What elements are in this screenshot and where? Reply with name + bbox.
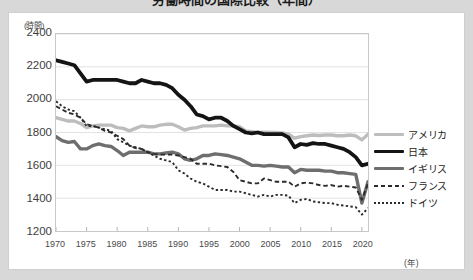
legend-item-ドイツ[interactable]: ドイツ: [374, 194, 470, 211]
legend-label: イギリス: [408, 161, 447, 176]
chart-screenshot: 労働時間の国際比較（年間） (時間) (年) 24002200200018001…: [0, 0, 473, 280]
series-line-日本: [56, 60, 368, 165]
legend-swatch-icon: [374, 146, 404, 158]
legend-label: フランス: [408, 178, 447, 193]
legend-label: ドイツ: [408, 195, 437, 210]
chart-legend: アメリカ日本イギリスフランスドイツ: [374, 126, 470, 211]
x-tick-2020: 2020: [343, 239, 383, 249]
legend-label: 日本: [408, 144, 428, 159]
legend-item-日本[interactable]: 日本: [374, 143, 470, 160]
legend-swatch-icon: [374, 180, 404, 192]
legend-item-アメリカ[interactable]: アメリカ: [374, 126, 470, 143]
legend-item-イギリス[interactable]: イギリス: [374, 160, 470, 177]
legend-swatch-icon: [374, 197, 404, 209]
legend-swatch-icon: [374, 129, 404, 141]
series-line-イギリス: [56, 137, 368, 203]
plot-area: [55, 33, 369, 232]
legend-swatch-icon: [374, 163, 404, 175]
legend-item-フランス[interactable]: フランス: [374, 177, 470, 194]
plot-svg: [56, 34, 368, 231]
legend-label: アメリカ: [408, 127, 447, 142]
